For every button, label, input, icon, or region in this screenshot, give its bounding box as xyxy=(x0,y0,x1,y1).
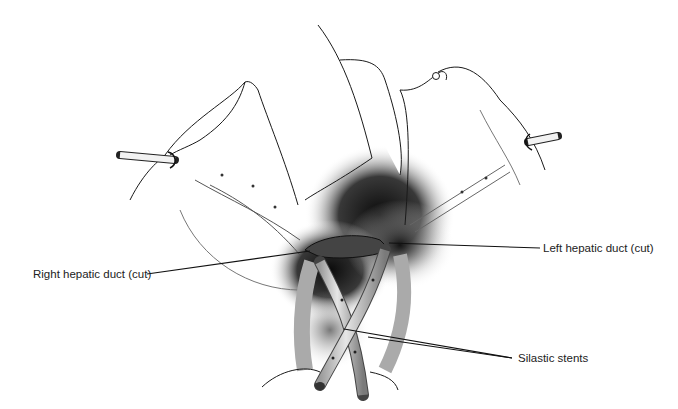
label-right-hepatic-duct: Right hepatic duct (cut) xyxy=(33,267,151,281)
label-left-hepatic-duct: Left hepatic duct (cut) xyxy=(543,241,654,255)
illustration-canvas: Right hepatic duct (cut) Left hepatic du… xyxy=(0,0,678,409)
label-silastic-stents: Silastic stents xyxy=(518,351,588,365)
anatomy-drawing xyxy=(0,0,678,409)
leader-silastic-stent-1 xyxy=(344,329,512,358)
right-retracted-lobe xyxy=(433,67,546,185)
